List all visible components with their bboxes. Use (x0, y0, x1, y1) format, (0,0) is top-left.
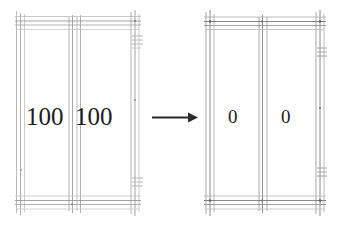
figure-canvas: 100 100 0 0 (0, 0, 337, 232)
figure-caption (0, 222, 337, 232)
right-frame-left-bay-load: 0 (228, 107, 238, 126)
transform-arrow-icon (152, 113, 198, 123)
right-frame-right-bay-load: 0 (281, 107, 291, 126)
left-frame-left-bay-load: 100 (26, 104, 64, 129)
left-frame-right-bay-load: 100 (75, 104, 113, 129)
right-frame-group (204, 10, 327, 216)
